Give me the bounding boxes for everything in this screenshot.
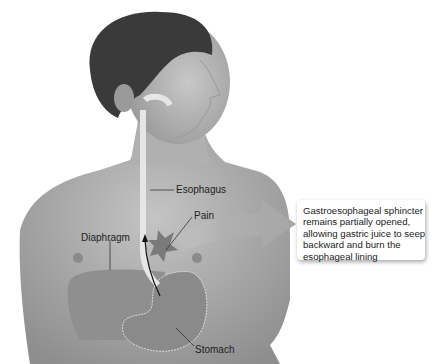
callout-line: allowing gastric juice to seep [303, 228, 419, 239]
callout-line: Gastroesophageal sphincter [303, 205, 419, 216]
callout-line: backward and burn the [303, 239, 419, 250]
label-esophagus: Esophagus [176, 185, 226, 195]
callout-line: remains partially opened, [303, 216, 419, 227]
ear [114, 84, 134, 112]
callout-line: esophageal lining [303, 251, 419, 262]
label-pain: Pain [194, 211, 214, 221]
torso-illustration [0, 0, 447, 364]
anatomy-figure: Esophagus Pain Diaphragm Stomach Gastroe… [0, 0, 447, 364]
label-stomach: Stomach [195, 345, 234, 355]
callout-box: Gastroesophageal sphincter remains parti… [297, 200, 425, 260]
label-diaphragm: Diaphragm [81, 233, 130, 243]
